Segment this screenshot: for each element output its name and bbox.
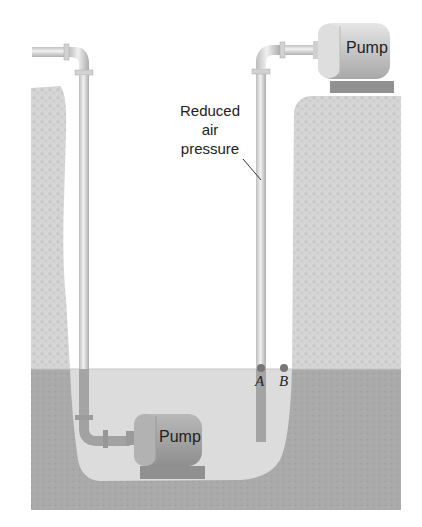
bottom-pump [134, 414, 205, 479]
well-pump-diagram: Reduced air pressure Pump Pump A B [0, 0, 422, 527]
right-soil-column [292, 96, 401, 369]
left-riser-pipe [79, 75, 89, 369]
top-pump-base [330, 81, 394, 93]
right-pipe-elbow [256, 45, 280, 69]
left-pipe-flange-v [75, 70, 93, 75]
top-pump [318, 23, 394, 93]
callout-line-1: Reduced [150, 101, 270, 120]
right-pipe-flange-h [280, 42, 285, 58]
right-outlet-pipe [285, 45, 315, 55]
bottom-pump-base [140, 466, 205, 479]
right-riser-flange [252, 69, 270, 74]
left-riser-flange-low [75, 415, 93, 420]
point-a-label: A [255, 373, 264, 390]
bottom-pump-label: Pump [159, 428, 201, 446]
left-lower-flange [103, 430, 108, 448]
left-riser-pipe-submerged [79, 369, 89, 423]
reduced-air-pressure-callout: Reduced air pressure [150, 101, 270, 158]
point-b-label: B [279, 373, 288, 390]
left-pipe-flange-h [64, 44, 69, 60]
callout-line-2: air [150, 120, 270, 139]
left-outlet-pipe [32, 47, 68, 57]
diagram-canvas [0, 0, 422, 527]
left-pipe-elbow [69, 47, 89, 70]
point-a-marker [257, 364, 265, 372]
left-pump-inlet [126, 431, 134, 445]
callout-line-3: pressure [150, 139, 270, 158]
top-pump-label: Pump [346, 39, 388, 57]
left-soil-column [31, 86, 70, 369]
point-b-marker [280, 364, 288, 372]
